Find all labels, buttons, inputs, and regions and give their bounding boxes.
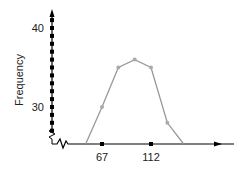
y-axis-arrow [50, 9, 55, 17]
series-line [86, 60, 184, 144]
data-point [100, 105, 104, 109]
y-tick-dot [50, 113, 54, 117]
series [86, 58, 184, 144]
y-tick-dot [50, 66, 54, 70]
data-point [116, 66, 120, 70]
y-tick-dot [50, 50, 54, 54]
y-tick-dot [50, 81, 54, 85]
y-tick-dot [50, 26, 54, 30]
y-tick-dot [50, 18, 54, 22]
y-tick-dot [50, 129, 54, 133]
x-ticks: 67112 [96, 142, 160, 163]
y-ticks: 4030 [32, 18, 54, 133]
y-tick-dot [50, 105, 54, 109]
y-tick-dot [50, 89, 54, 93]
data-point [165, 121, 169, 125]
y-tick-dot [50, 121, 54, 125]
y-tick-dot [50, 97, 54, 101]
x-tick-label: 67 [96, 151, 108, 163]
x-axis-line [52, 139, 234, 148]
x-tick-label: 112 [142, 151, 160, 163]
y-tick-dot [50, 34, 54, 38]
frequency-polygon-chart: 4030 67112 Frequency [0, 0, 234, 169]
y-tick-dot [50, 42, 54, 46]
x-tick-dot [100, 142, 104, 146]
x-axis-arrow [214, 142, 222, 147]
y-tick-dot [50, 73, 54, 77]
x-tick-dot [149, 142, 153, 146]
y-axis-label: Frequency [13, 54, 25, 106]
data-point [149, 66, 153, 70]
axes [49, 9, 234, 148]
y-tick-label: 30 [32, 101, 44, 113]
data-point [133, 58, 137, 62]
y-tick-dot [50, 58, 54, 62]
y-tick-label: 40 [32, 22, 44, 34]
